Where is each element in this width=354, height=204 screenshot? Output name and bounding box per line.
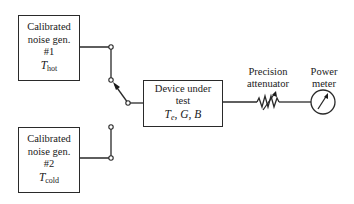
meter-label-line1: Power <box>303 66 345 78</box>
switch-pivot <box>126 101 130 105</box>
gen2-lead <box>80 127 111 158</box>
dut-params: Te, G, B <box>165 108 202 125</box>
gen2-temp-subscript: cold <box>45 176 59 185</box>
attenuator-label-line2: attenuator <box>240 78 296 90</box>
switch-arrowhead <box>113 82 120 90</box>
switch-contact-gen1 <box>109 78 113 82</box>
dut-line2: test <box>176 95 191 108</box>
dut-line1: Device under <box>155 83 211 96</box>
noise-generator-2-box: Calibrated noise gen. #2 Tcold <box>18 127 80 193</box>
gen2-line2: noise gen. <box>28 146 71 159</box>
attenuator-resistor-icon <box>257 96 279 107</box>
dut-param-rest: , G, B <box>175 108 202 120</box>
noise-generator-1-box: Calibrated noise gen. #1 Thot <box>18 15 80 81</box>
device-under-test-box: Device under test Te, G, B <box>143 80 223 127</box>
switch-contact-gen1-junction <box>109 45 113 49</box>
attenuator-label: Precision attenuator <box>240 66 296 90</box>
gen1-lead <box>80 47 111 79</box>
gen2-temperature: Tcold <box>39 171 59 188</box>
gen2-line1: Calibrated <box>27 133 71 146</box>
gen1-line3: #1 <box>44 46 55 59</box>
noise-measurement-diagram: Calibrated noise gen. #1 Thot Calibrated… <box>0 0 354 204</box>
switch-contact-gen2 <box>109 125 113 129</box>
gen2-line3: #2 <box>44 158 55 171</box>
meter-label-line2: meter <box>303 78 345 90</box>
switch-contact-gen2-junction <box>109 156 113 160</box>
gen1-temperature: Thot <box>41 59 58 76</box>
gen1-line2: noise gen. <box>28 34 71 47</box>
power-meter-label: Power meter <box>303 66 345 90</box>
gen1-temp-subscript: hot <box>47 64 57 73</box>
gen1-line1: Calibrated <box>27 21 71 34</box>
attenuator-label-line1: Precision <box>240 66 296 78</box>
